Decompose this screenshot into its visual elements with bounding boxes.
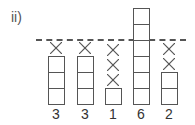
column-value: 6 <box>133 106 149 122</box>
unit-box <box>48 72 65 89</box>
unit-box <box>133 40 150 57</box>
cross-icon <box>79 42 91 54</box>
unit-box <box>77 56 94 73</box>
unit-box <box>48 88 65 105</box>
column-value: 1 <box>105 106 121 122</box>
part-label: ii) <box>11 9 22 25</box>
column-value: 3 <box>48 106 64 122</box>
unit-box <box>77 72 94 89</box>
unit-box <box>48 56 65 73</box>
unit-box <box>133 56 150 73</box>
column-value: 3 <box>77 106 93 122</box>
unit-box <box>105 88 122 105</box>
unit-box <box>161 88 178 105</box>
unit-box <box>133 72 150 89</box>
unit-box <box>133 8 150 25</box>
column-value: 2 <box>161 106 177 122</box>
cross-icon <box>107 59 119 71</box>
cross-icon <box>50 42 62 54</box>
cross-icon <box>107 44 119 56</box>
unit-box <box>133 24 150 41</box>
cross-icon <box>163 58 175 70</box>
unit-box <box>161 72 178 89</box>
unit-box <box>77 88 94 105</box>
unit-box <box>133 88 150 105</box>
dashed-mean-line <box>36 39 186 41</box>
cross-icon <box>163 43 175 55</box>
cross-icon <box>107 74 119 86</box>
